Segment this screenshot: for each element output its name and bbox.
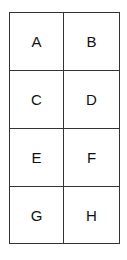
grid-cell-a: A <box>10 13 64 71</box>
grid-cell-c: C <box>10 71 64 129</box>
grid-cell-f: F <box>64 129 119 187</box>
letter-grid: A B C D E F G H <box>9 12 120 244</box>
grid-cell-e: E <box>10 129 64 187</box>
grid-cell-h: H <box>64 187 119 243</box>
grid-cell-g: G <box>10 187 64 243</box>
grid-cell-d: D <box>64 71 119 129</box>
grid-cell-b: B <box>64 13 119 71</box>
